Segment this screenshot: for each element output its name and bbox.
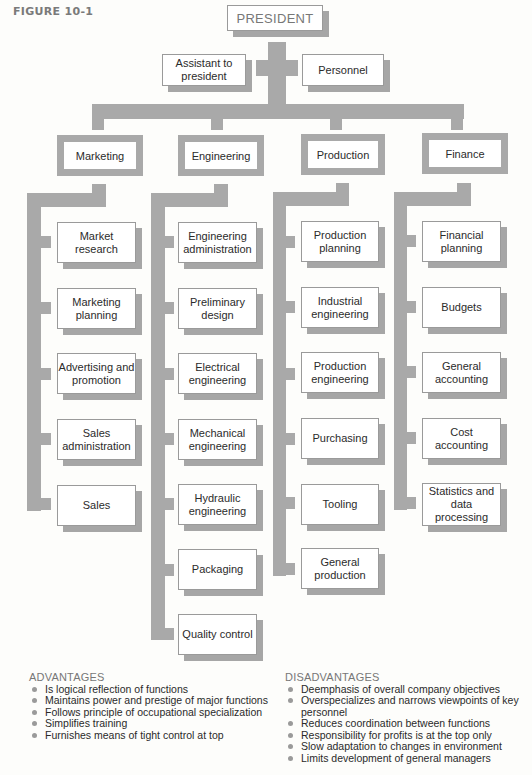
- president-label: PRESIDENT: [236, 12, 313, 25]
- department-label: Production: [317, 149, 370, 161]
- list-item: Furnishes means of tight control at top: [29, 730, 269, 742]
- engineering-tick: [165, 368, 174, 380]
- unit-label: Electrical engineering: [179, 361, 256, 387]
- unit-label: Market research: [58, 230, 135, 256]
- unit-box: General production: [301, 548, 379, 589]
- department-label: Engineering: [192, 150, 251, 162]
- engineering-tick: [165, 628, 174, 640]
- unit-label: Mechanical engineering: [179, 427, 256, 453]
- bullet-icon: [288, 698, 293, 703]
- unit-box: Industrial engineering: [301, 287, 379, 328]
- bullet-icon: [32, 733, 37, 738]
- unit-label: General accounting: [423, 360, 500, 386]
- bullet-icon: [32, 698, 37, 703]
- unit-box: Tooling: [301, 484, 379, 525]
- bullet-icon: [288, 733, 293, 738]
- department-marketing: Marketing: [57, 135, 143, 176]
- marketing-spine: [27, 193, 41, 511]
- unit-box: Packaging: [178, 549, 257, 590]
- department-crossbar: [92, 104, 464, 119]
- unit-box: Advertising and promotion: [57, 353, 136, 394]
- marketing-tick: [41, 302, 51, 314]
- department-engineering: Engineering: [178, 135, 264, 176]
- bullet-icon: [32, 710, 37, 715]
- finance-tick: [407, 497, 416, 509]
- unit-label: Budgets: [441, 301, 481, 314]
- bullet-icon: [288, 687, 293, 692]
- staff-label-personnel: Personnel: [318, 64, 368, 77]
- staff-crossbar: [256, 60, 298, 76]
- unit-label: Cost accounting: [423, 426, 500, 452]
- engineering-tick: [165, 302, 174, 314]
- bullet-icon: [32, 721, 37, 726]
- unit-box: Production planning: [301, 221, 379, 262]
- engineering-tick: [165, 498, 174, 510]
- production-tick: [286, 301, 295, 313]
- unit-box: Marketing planning: [57, 288, 136, 329]
- bullet-icon: [32, 687, 37, 692]
- unit-box: Mechanical engineering: [178, 419, 257, 460]
- engineering-tick: [165, 236, 174, 248]
- unit-box: Market research: [57, 222, 136, 263]
- unit-box: Quality control: [178, 614, 257, 655]
- finance-tick: [407, 366, 416, 378]
- bullet-icon: [288, 744, 293, 749]
- unit-label: Advertising and promotion: [58, 361, 135, 387]
- unit-label: Industrial engineering: [302, 295, 378, 321]
- unit-label: Hydraulic engineering: [179, 492, 256, 518]
- unit-label: Engineering administration: [179, 230, 256, 256]
- unit-label: Production planning: [302, 229, 378, 255]
- production-tick: [286, 563, 295, 575]
- department-production: Production: [301, 134, 385, 175]
- unit-label: Tooling: [323, 498, 358, 511]
- unit-label: Financial planning: [423, 229, 500, 255]
- marketing-tick: [41, 498, 51, 510]
- unit-box: Purchasing: [301, 418, 379, 459]
- unit-box: Hydraulic engineering: [178, 484, 257, 525]
- production-tick: [286, 433, 295, 445]
- unit-box: General accounting: [422, 352, 501, 393]
- finance-tick: [407, 301, 416, 313]
- unit-box: Cost accounting: [422, 418, 501, 459]
- engineering-spine: [151, 193, 165, 640]
- unit-label: Marketing planning: [58, 296, 135, 322]
- unit-label: Packaging: [192, 563, 243, 576]
- engineering-tick: [165, 564, 174, 576]
- bullet-icon: [288, 721, 293, 726]
- unit-label: Preliminary design: [179, 296, 256, 322]
- finance-tick: [407, 432, 416, 444]
- unit-label: Sales: [83, 499, 111, 512]
- drop-finance: [451, 104, 463, 130]
- bullet-icon: [288, 756, 293, 761]
- drop-marketing: [92, 104, 104, 130]
- unit-box: Sales administration: [57, 419, 136, 460]
- engineering-tick: [165, 433, 174, 445]
- president-box: PRESIDENT: [227, 5, 323, 31]
- list-item: Overspecializes and narrows viewpoints o…: [285, 695, 531, 718]
- staff-box-personnel: Personnel: [302, 54, 384, 86]
- advantages-list: Is logical reflection of functions Maint…: [29, 684, 269, 742]
- unit-label: Purchasing: [312, 432, 367, 445]
- unit-label: Production engineering: [302, 360, 378, 386]
- unit-box: Sales: [57, 485, 136, 526]
- unit-box: Financial planning: [422, 221, 501, 262]
- unit-box: Budgets: [422, 287, 501, 328]
- production-tick: [286, 497, 295, 509]
- marketing-tick: [41, 433, 51, 445]
- unit-box: Electrical engineering: [178, 353, 257, 394]
- finance-spine: [394, 192, 407, 510]
- unit-label: Quality control: [182, 628, 252, 641]
- production-spine: [273, 192, 286, 576]
- unit-box: Preliminary design: [178, 288, 257, 329]
- figure-label: FIGURE 10-1: [13, 5, 93, 18]
- staff-label-assistant: Assistant to president: [163, 57, 245, 83]
- unit-box: Statistics and data processing: [422, 483, 501, 526]
- unit-label: General production: [302, 556, 378, 582]
- department-finance: Finance: [422, 133, 508, 174]
- marketing-tick: [41, 368, 51, 380]
- marketing-tick: [41, 236, 51, 248]
- production-tick: [286, 368, 295, 380]
- unit-label: Sales administration: [58, 427, 135, 453]
- unit-box: Production engineering: [301, 352, 379, 393]
- list-item: Limits development of general managers: [285, 753, 531, 765]
